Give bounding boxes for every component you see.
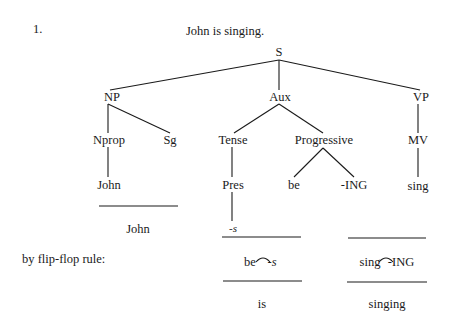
sentence-title: John is singing. bbox=[186, 24, 264, 38]
node-mv: MV bbox=[408, 133, 428, 147]
node-progressive: Progressive bbox=[295, 133, 353, 147]
example-number: 1. bbox=[33, 22, 42, 36]
be-s-suffix: -s bbox=[267, 255, 276, 269]
branch-progressive-ing bbox=[323, 148, 354, 177]
branch-progressive-be bbox=[294, 148, 323, 177]
node-s: S bbox=[276, 45, 283, 59]
branch-s-np bbox=[110, 60, 279, 90]
node-pres: Pres bbox=[222, 178, 244, 192]
tree-branches bbox=[0, 0, 451, 329]
node-tense: Tense bbox=[219, 133, 248, 147]
node-np: NP bbox=[104, 90, 120, 104]
branch-aux-tense bbox=[234, 104, 279, 133]
output-is: is bbox=[258, 297, 266, 311]
node-john: John bbox=[97, 178, 121, 192]
flip-flop-rule-label: by flip-flop rule: bbox=[22, 252, 105, 266]
sing-ing-suffix: -ING bbox=[388, 255, 414, 269]
node-sing: sing bbox=[408, 179, 429, 193]
sing-ing-stem: sing bbox=[360, 255, 381, 269]
node-aux: Aux bbox=[269, 90, 291, 104]
branch-aux-progressive bbox=[279, 104, 323, 133]
branch-np-sg bbox=[108, 104, 170, 133]
node-suffix-s: -s bbox=[229, 221, 237, 235]
node-nprop: Nprop bbox=[93, 133, 125, 147]
node-be: be bbox=[288, 178, 300, 192]
node-sg: Sg bbox=[163, 133, 176, 147]
be-s-stem: be bbox=[244, 255, 256, 269]
node-vp: VP bbox=[413, 90, 429, 104]
branch-s-vp bbox=[279, 60, 420, 90]
output-singing: singing bbox=[369, 297, 406, 311]
derivation-john: John bbox=[126, 222, 150, 236]
node-ing: -ING bbox=[341, 178, 367, 192]
